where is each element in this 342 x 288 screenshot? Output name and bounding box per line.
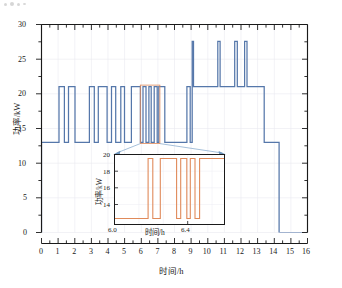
inset-xtick-64: 6.4	[181, 226, 190, 234]
figure-canvas: 0 5 10 15 20 25 30 0 1 2 3 4 5 6 7 8 9 1…	[0, 0, 342, 288]
main-xtick-11: 11	[219, 247, 227, 256]
main-xtick-16: 16	[302, 247, 310, 256]
main-xtick-9: 9	[189, 247, 193, 256]
main-yaxis-label: 功率/kW	[10, 89, 22, 149]
main-xtick-8: 8	[172, 247, 176, 256]
inset-ytick-18: 18	[103, 168, 110, 176]
main-xtick-4: 4	[106, 247, 110, 256]
main-xtick-15: 15	[286, 247, 294, 256]
inset-ytick-14: 14	[103, 201, 110, 209]
zoom-connectors	[117, 144, 223, 153]
main-ytick-25: 25	[18, 55, 26, 64]
main-xtick-0: 0	[39, 247, 43, 256]
main-xtick-6: 6	[139, 247, 143, 256]
main-xtick-3: 3	[89, 247, 93, 256]
inset-background	[115, 155, 225, 225]
inset-xaxis-label: 时间/h	[145, 226, 165, 237]
main-xtick-7: 7	[155, 247, 159, 256]
main-xtick-5: 5	[122, 247, 126, 256]
main-ytick-10: 10	[18, 159, 26, 168]
main-xaxis-label: 时间/h	[159, 264, 184, 276]
main-ytick-0: 0	[23, 228, 27, 237]
main-xticks	[42, 238, 308, 244]
main-top-ticks	[42, 25, 300, 31]
main-xtick-1: 1	[56, 247, 60, 256]
scan-artifact	[3, 1, 29, 8]
inset-xtick-60: 6.0	[108, 226, 117, 234]
main-xtick-2: 2	[72, 247, 76, 256]
main-xtick-14: 14	[269, 247, 277, 256]
chart-plot	[0, 0, 342, 288]
main-ytick-30: 30	[18, 20, 26, 29]
inset-yaxis-label: 功率/kW	[93, 167, 104, 217]
main-xtick-10: 10	[203, 247, 211, 256]
main-right-ticks	[302, 25, 308, 233]
inset-ytick-16: 16	[103, 184, 110, 192]
main-yticks	[36, 25, 42, 233]
inset-ytick-20: 20	[103, 151, 110, 159]
main-xtick-13: 13	[253, 247, 261, 256]
main-ytick-5: 5	[23, 193, 27, 202]
main-xtick-12: 12	[236, 247, 244, 256]
